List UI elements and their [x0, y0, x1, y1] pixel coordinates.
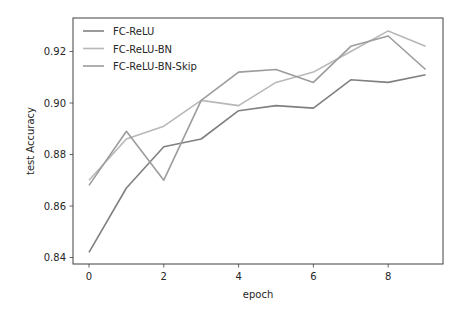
- y-tick-label: 0.84: [44, 252, 66, 263]
- x-axis-label: epoch: [243, 289, 273, 300]
- x-tick-label: 8: [385, 271, 391, 282]
- legend-label: FC-ReLU-BN: [113, 44, 172, 55]
- y-tick-label: 0.90: [44, 98, 66, 109]
- line-chart: 02468 0.840.860.880.900.92 epoch test Ac…: [0, 0, 461, 312]
- figure-background: [0, 0, 461, 312]
- x-tick-label: 2: [161, 271, 167, 282]
- legend-label: FC-ReLU-BN-Skip: [113, 61, 197, 72]
- x-tick-label: 6: [310, 271, 316, 282]
- y-tick-label: 0.88: [44, 149, 66, 160]
- y-tick-label: 0.92: [44, 46, 66, 57]
- y-tick-label: 0.86: [44, 201, 66, 212]
- x-tick-label: 4: [235, 271, 241, 282]
- legend-label: FC-ReLU: [113, 26, 154, 37]
- y-axis-label: test Accuracy: [25, 107, 36, 175]
- x-tick-label: 0: [86, 271, 92, 282]
